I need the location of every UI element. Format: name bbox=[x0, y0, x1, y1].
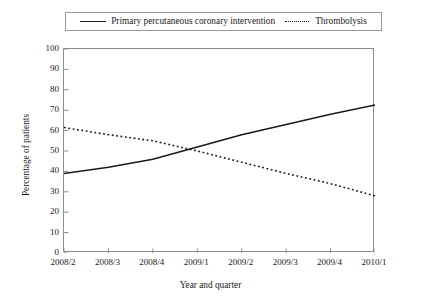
solid-line-swatch bbox=[80, 18, 106, 25]
y-axis-tick-label: 100 bbox=[33, 44, 59, 53]
plot-area bbox=[63, 48, 374, 252]
legend-label-ppci: Primary percutaneous coronary interventi… bbox=[111, 17, 275, 26]
legend-entry-thrombolysis: Thrombolysis bbox=[284, 17, 367, 26]
y-axis-tick-label: 20 bbox=[33, 207, 59, 216]
y-axis-tick-marks bbox=[64, 49, 69, 253]
chart-legend: Primary percutaneous coronary interventi… bbox=[65, 12, 382, 31]
y-axis-tick-label: 50 bbox=[33, 146, 59, 155]
dotted-line-swatch bbox=[284, 18, 310, 25]
y-axis-tick-label: 90 bbox=[33, 64, 59, 73]
series-line-ppci bbox=[64, 105, 375, 173]
x-axis-tick-marks bbox=[64, 249, 375, 254]
y-axis-tick-label: 40 bbox=[33, 166, 59, 175]
y-axis-tick-label: 0 bbox=[33, 248, 59, 257]
x-axis-tick-label: 2010/1 bbox=[344, 258, 404, 267]
legend-entry-ppci: Primary percutaneous coronary interventi… bbox=[80, 17, 275, 26]
y-axis-tick-label: 30 bbox=[33, 186, 59, 195]
chart-figure: Primary percutaneous coronary interventi… bbox=[0, 0, 421, 304]
x-axis-tick-labels: 2008/22008/32008/42009/12009/22009/32009… bbox=[0, 258, 421, 272]
plot-svg bbox=[64, 49, 375, 253]
y-axis-tick-label: 60 bbox=[33, 125, 59, 134]
series-line-thrombolysis bbox=[64, 128, 375, 196]
x-axis-title: Year and quarter bbox=[0, 280, 421, 290]
y-axis-tick-label: 10 bbox=[33, 227, 59, 236]
y-axis-title: Percentage of patients bbox=[21, 80, 31, 230]
legend-label-thrombolysis: Thrombolysis bbox=[315, 17, 367, 26]
y-axis-tick-label: 80 bbox=[33, 84, 59, 93]
y-axis-tick-label: 70 bbox=[33, 105, 59, 114]
